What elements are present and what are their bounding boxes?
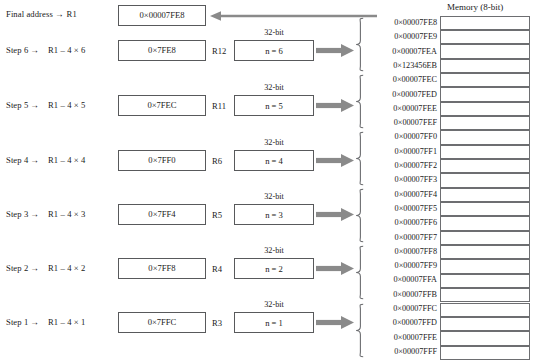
memory-address-label: 0×00007FFE [366,333,437,342]
word-count-box: n = 2 [234,258,314,279]
memory-address-label: 0×00007FFB [366,290,437,299]
bit-width-caption: 32-bit [234,28,314,37]
address-group-brace [355,17,364,72]
bit-width-caption: 32-bit [234,83,314,92]
stack-addressing-diagram: Memory (8-bit) 0×00007FE80×00007FE90×000… [0,0,534,362]
memory-address-label: 0×00007FF0 [366,132,437,141]
address-group-brace [355,131,364,186]
memory-cell [440,59,530,73]
step-label-5: Step 5→R1 – 4 × 5 [6,100,85,110]
register-to-memory-arrow [316,154,356,167]
word-count-box: n = 1 [234,312,314,333]
step-label-1: Step 1→R1 – 4 × 1 [6,317,85,327]
memory-cell [440,30,530,44]
memory-address-label: 0×00007FF7 [366,233,437,242]
address-group-brace [355,303,364,358]
step-address-box: 0×7FF4 [118,204,206,225]
memory-cell [440,288,530,302]
memory-cell [440,202,530,216]
step-name: Step 1 [6,317,28,327]
memory-cell [440,331,530,345]
step-expression: R1 – 4 × 3 [42,209,85,219]
step-arrow-glyph: → [28,155,42,165]
step-expression: R1 – 4 × 1 [42,317,85,327]
memory-address-label: 0×00007FE9 [366,32,437,41]
memory-address-label: 0×00007FF3 [366,175,437,184]
register-to-memory-arrow [316,44,356,57]
step-label-4: Step 4→R1 – 4 × 4 [6,155,85,165]
memory-cell [440,173,530,187]
memory-cell [440,87,530,101]
final-address-text: Final address [6,9,53,19]
word-count-box: n = 6 [234,40,314,61]
memory-address-label: 0×00007FFC [366,304,437,313]
memory-address-label: 0×00007FF2 [366,161,437,170]
word-count-box: n = 3 [234,204,314,225]
memory-cell [440,130,530,144]
memory-address-label: 0×00007FED [366,90,437,99]
memory-cell [440,116,530,130]
step-expression: R1 – 4 × 4 [42,155,85,165]
memory-address-label: 0×00007FEF [366,118,437,127]
step-arrow-glyph: → [28,209,42,219]
memory-address-label: 0×00007FEC [366,75,437,84]
bit-width-caption: 32-bit [234,192,314,201]
step-name: Step 6 [6,45,28,55]
step-name: Step 3 [6,209,28,219]
memory-address-label: 0×00007FF1 [366,147,437,156]
address-group-brace [355,74,364,129]
step-arrow-glyph: → [28,317,42,327]
memory-cell [440,102,530,116]
memory-address-label: 0×00007FF4 [366,190,437,199]
memory-address-label: 0×00007FF9 [366,261,437,270]
step-address-box: 0×7FFC [118,312,206,333]
step-expression: R1 – 4 × 2 [42,263,85,273]
address-group-brace [355,245,364,300]
register-to-memory-arrow [316,262,356,275]
final-address-arrow-glyph: → [53,9,67,19]
register-name: R6 [212,156,222,166]
step-label-6: Step 6→R1 – 4 × 6 [6,45,85,55]
final-address-feedback-arrow [206,8,378,24]
register-name: R11 [212,101,226,111]
memory-cell [440,317,530,331]
memory-cell [440,231,530,245]
final-address-value-box: 0×00007FE8 [118,5,206,26]
step-label-2: Step 2→R1 – 4 × 2 [6,263,85,273]
step-label-3: Step 3→R1 – 4 × 3 [6,209,85,219]
final-address-label: Final address→R1 [6,9,77,19]
step-address-box: 0×7FF0 [118,150,206,171]
memory-address-label: 0×00007FFF [366,347,437,356]
memory-cell [440,16,530,30]
step-arrow-glyph: → [28,263,42,273]
step-name: Step 4 [6,155,28,165]
step-address-box: 0×7FF8 [118,258,206,279]
step-address-box: 0×7FEC [118,95,206,116]
register-to-memory-arrow [316,208,356,221]
memory-cell [440,216,530,230]
final-address-register: R1 [67,9,77,19]
bit-width-caption: 32-bit [234,300,314,309]
memory-address-label: 0×00007FF8 [366,247,437,256]
memory-cell [440,259,530,273]
bit-width-caption: 32-bit [234,138,314,147]
word-count-box: n = 4 [234,150,314,171]
memory-cell [440,346,530,360]
memory-cell [440,145,530,159]
step-address-box: 0×7FE8 [118,40,206,61]
word-count-box: n = 5 [234,95,314,116]
memory-cell [440,245,530,259]
memory-address-label: 0×123456EB [366,61,437,70]
memory-address-label: 0×00007FEE [366,104,437,113]
step-name: Step 5 [6,100,28,110]
step-arrow-glyph: → [28,100,42,110]
step-arrow-glyph: → [28,45,42,55]
memory-address-label: 0×00007FFD [366,318,437,327]
memory-address-label: 0×00007FEA [366,47,437,56]
memory-address-label: 0×00007FFA [366,275,437,284]
register-to-memory-arrow [316,99,356,112]
memory-cell [440,44,530,58]
step-name: Step 2 [6,263,28,273]
register-name: R3 [212,318,222,328]
step-expression: R1 – 4 × 6 [42,45,85,55]
